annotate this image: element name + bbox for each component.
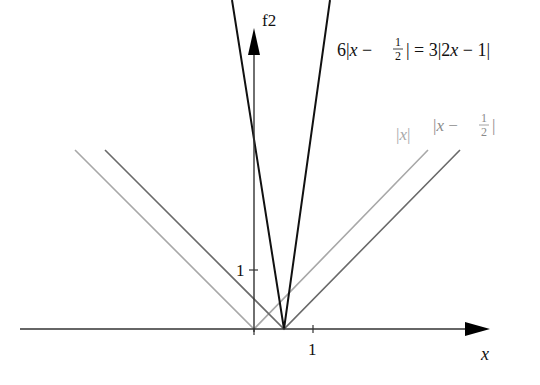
svg-text:6|x −: 6|x − (337, 40, 372, 60)
y-tick-label-1: 1 (236, 261, 245, 280)
y-axis-arrow-icon (248, 28, 260, 55)
x-tick-label-1: 1 (308, 340, 317, 359)
svg-text:| = 3|2x − 1|: | = 3|2x − 1| (406, 40, 490, 60)
svg-text:|: | (492, 116, 495, 135)
chart-canvas: f2 x 1 1 6|x − 1 2 | = 3|2x − 1| |x| |x … (0, 0, 540, 385)
series-abs-x-minus-half (105, 150, 460, 329)
series-abs-x (75, 150, 428, 329)
svg-text:2: 2 (395, 49, 401, 63)
svg-text:|x −: |x − (433, 116, 458, 135)
svg-text:2: 2 (481, 125, 487, 139)
equation-annotation: 6|x − 1 2 | = 3|2x − 1| (337, 35, 490, 63)
x-axis-arrow-icon (465, 322, 490, 336)
abs-x-minus-half-label: |x − 1 2 | (433, 111, 495, 139)
svg-text:1: 1 (395, 35, 401, 49)
svg-text:|x|: |x| (396, 125, 410, 144)
y-axis-label: f2 (262, 11, 276, 30)
x-axis-label: x (480, 344, 489, 364)
abs-x-label: |x| (396, 125, 410, 144)
series-six-abs (232, 0, 330, 329)
svg-text:1: 1 (481, 111, 487, 125)
